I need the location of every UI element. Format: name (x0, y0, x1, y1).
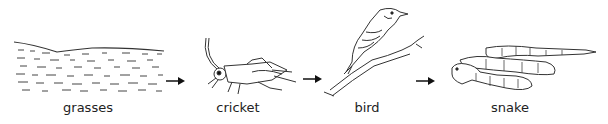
bird-label: bird (354, 100, 379, 115)
cricket-illustration (192, 28, 302, 98)
arrow-right-icon (166, 76, 186, 86)
snake-label: snake (491, 100, 529, 115)
grasses-illustration (12, 38, 167, 98)
arrow-right-icon (416, 76, 436, 86)
grasses-label: grasses (63, 100, 113, 115)
arrow-right-icon (303, 74, 323, 84)
snake-illustration (446, 40, 606, 96)
cricket-label: cricket (216, 100, 259, 115)
